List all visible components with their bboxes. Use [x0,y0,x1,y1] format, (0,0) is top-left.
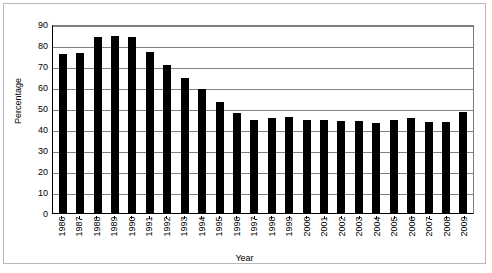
bar [216,102,224,213]
bar [59,54,67,213]
y-axis-tick-label: 70 [22,63,48,72]
x-axis-tick-label: 1999 [285,216,294,236]
bar [250,120,258,213]
x-tick-slot: 1989 [106,216,124,256]
bar-slot [333,26,350,213]
bar [425,122,433,213]
bar-slot [211,26,228,213]
x-axis-tick-label: 1988 [92,216,101,236]
bar [390,120,398,213]
x-axis-tick-label: 1990 [127,216,136,236]
x-axis-tick-label: 1998 [267,216,276,236]
x-tick-slot: 1990 [123,216,141,256]
bar-slot [437,26,454,213]
x-tick-slot: 2005 [386,216,404,256]
x-axis-tick-label: 2003 [355,216,364,236]
bar [268,118,276,213]
bar [337,121,345,213]
bar [355,121,363,213]
bar-slot [71,26,88,213]
x-tick-slot: 2006 [403,216,421,256]
y-axis-tick-label: 90 [22,21,48,30]
bar-slot [89,26,106,213]
x-tick-slot: 1995 [211,216,229,256]
x-axis-tick-label: 1997 [250,216,259,236]
bar [146,52,154,213]
x-tick-slot: 1993 [176,216,194,256]
y-axis-tick-label: 60 [22,84,48,93]
bar-slot [298,26,315,213]
y-axis-tick-label: 0 [22,210,48,219]
x-axis-tick-label: 1989 [110,216,119,236]
bar [198,89,206,213]
x-tick-slot: 2002 [333,216,351,256]
bar-slot [420,26,437,213]
x-tick-slot: 1986 [53,216,71,256]
x-tick-slot: 2004 [368,216,386,256]
bar-slot [246,26,263,213]
x-axis-tick-label: 1986 [57,216,66,236]
x-axis-tick-label: 1996 [232,216,241,236]
bar [94,37,102,213]
x-tick-slot: 2003 [351,216,369,256]
x-axis-tick-label: 2000 [302,216,311,236]
x-axis-title: Year [4,253,485,263]
bar-slot [193,26,210,213]
y-axis-tick-label: 30 [22,147,48,156]
x-axis-tick-label: 2002 [337,216,346,236]
bar [407,118,415,213]
bar-slot [228,26,245,213]
x-axis-tick-label: 1987 [75,216,84,236]
x-axis-tick-label: 1993 [180,216,189,236]
x-axis-tick-label: 2001 [320,216,329,236]
x-tick-slot: 1992 [158,216,176,256]
x-tick-slot: 1999 [281,216,299,256]
y-axis-tick-label: 50 [22,105,48,114]
bar [285,117,293,213]
x-axis-tick-label: 2005 [390,216,399,236]
plot-area [52,25,474,214]
x-axis-tick-label: 2004 [372,216,381,236]
x-axis-tick-labels: 1986198719881989199019911992199319941995… [52,216,474,256]
bar-slot [124,26,141,213]
x-axis-tick-label: 2008 [442,216,451,236]
bar-slot [385,26,402,213]
bar-slot [141,26,158,213]
x-axis-tick-label: 2006 [407,216,416,236]
bar [128,37,136,213]
bar-slot [315,26,332,213]
bar-slot [368,26,385,213]
y-axis-tick-label: 10 [22,189,48,198]
x-tick-slot: 1991 [141,216,159,256]
bar [111,36,119,213]
bar [163,65,171,213]
x-tick-slot: 2000 [298,216,316,256]
bar [76,53,84,213]
y-axis-tick-label: 20 [22,168,48,177]
x-axis-tick-label: 2009 [460,216,469,236]
x-tick-slot: 2007 [421,216,439,256]
bar-slot [54,26,71,213]
x-tick-slot: 2001 [316,216,334,256]
x-tick-slot: 2008 [438,216,456,256]
bar-slot [263,26,280,213]
y-axis-tick-label: 80 [22,42,48,51]
bar [233,113,241,213]
x-axis-tick-label: 1991 [145,216,154,236]
x-tick-slot: 2009 [456,216,474,256]
x-tick-slot: 1988 [88,216,106,256]
bar-slot [455,26,472,213]
bar [442,122,450,213]
bar [372,123,380,213]
bar-slot [402,26,419,213]
y-axis-tick-label: 40 [22,126,48,135]
x-axis-tick-label: 1995 [215,216,224,236]
bar-slot [350,26,367,213]
x-tick-slot: 1996 [228,216,246,256]
y-axis-tick-labels: 0102030405060708090 [18,25,48,214]
bar-series [53,26,473,213]
x-tick-slot: 1998 [263,216,281,256]
x-axis-tick-label: 1992 [162,216,171,236]
x-tick-slot: 1997 [246,216,264,256]
x-tick-slot: 1987 [71,216,89,256]
